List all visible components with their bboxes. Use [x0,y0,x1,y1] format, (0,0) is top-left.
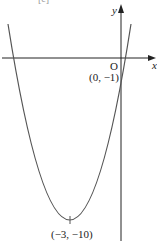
y-intercept-label: (0, −1) [89,72,119,83]
parabola-curve [8,24,131,220]
graph [0,0,157,241]
vertex-label: (−3, −10) [51,229,93,240]
part-label: [c] [38,0,49,4]
x-axis-label: x [152,60,157,71]
y-axis-arrow-icon [118,4,124,13]
y-axis-label: y [112,5,117,16]
